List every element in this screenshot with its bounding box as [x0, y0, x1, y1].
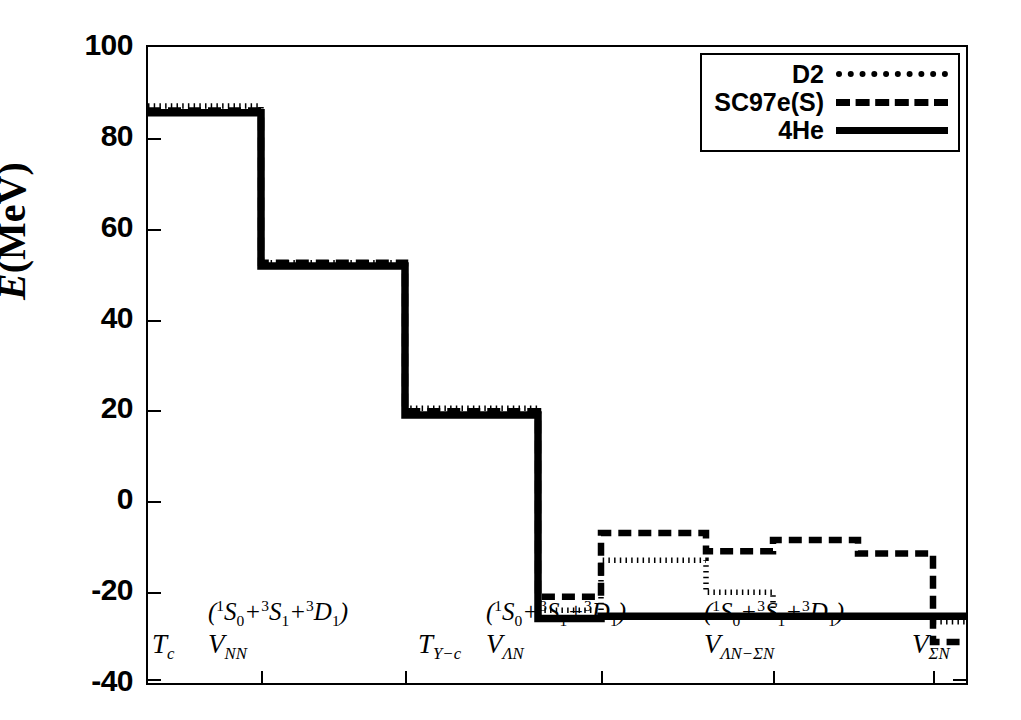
y-tick-mark — [148, 320, 161, 322]
plot-area: D2SC97e(S)4He — [146, 45, 968, 685]
y-tick-label: 100 — [38, 30, 133, 60]
legend-label: 4He — [778, 116, 824, 145]
x-tick-mark — [261, 671, 263, 683]
x-group-label: VNN — [208, 630, 247, 663]
legend: D2SC97e(S)4He — [700, 53, 960, 152]
legend-line — [836, 99, 948, 106]
y-axis-title-unit: (MeV) — [0, 162, 34, 273]
y-tick-label: 80 — [38, 121, 133, 151]
x-group-label: VΛN — [486, 630, 524, 663]
legend-line — [836, 71, 948, 77]
series-line-d2 — [148, 106, 966, 628]
y-tick-mark — [148, 410, 161, 412]
legend-label: SC97e(S) — [714, 88, 824, 117]
y-tick-mark — [148, 592, 161, 594]
chart-root: E(MeV) 100806040200-20-40 D2SC97e(S)4He … — [0, 0, 1021, 720]
series-line-4he — [148, 113, 966, 619]
y-tick-label: 20 — [38, 393, 133, 423]
y-tick-label: 40 — [38, 303, 133, 333]
x-group-label: VΛN−ΣN — [704, 630, 774, 663]
y-tick-label: 0 — [38, 484, 133, 514]
x-tick-mark — [773, 671, 775, 683]
legend-item: 4He — [714, 116, 948, 144]
legend-item: D2 — [714, 60, 948, 88]
legend-swatch-dotted — [836, 70, 948, 79]
y-tick-label: -40 — [38, 666, 133, 696]
x-group-top-label: (1S0+3S1+3D1) — [208, 598, 348, 630]
y-tick-mark — [148, 501, 161, 503]
y-tick-mark — [148, 679, 161, 681]
x-tick-mark — [933, 671, 935, 683]
x-tick-mark — [405, 671, 407, 683]
y-tick-label: -20 — [38, 575, 133, 605]
x-group-top-label: (1S0+3S1+3D1) — [486, 598, 626, 630]
y-tick-mark — [148, 138, 161, 140]
legend-swatch-dashed — [836, 98, 948, 107]
x-group-top-label: (1S0+3S1+3D1) — [704, 598, 844, 630]
legend-line — [836, 127, 948, 134]
legend-label: D2 — [792, 60, 824, 89]
y-axis-title: E(MeV) — [0, 162, 35, 300]
x-group-label: VΣN — [912, 630, 950, 663]
series-line-4he-outline — [148, 113, 966, 619]
x-group-label: TY−c — [418, 630, 461, 663]
y-tick-mark-right — [953, 679, 966, 681]
y-axis-title-symbol: E — [0, 273, 34, 300]
x-group-label: Tc — [152, 630, 174, 663]
series-line-sc97e-s- — [148, 111, 966, 643]
y-tick-mark — [148, 229, 161, 231]
legend-item: SC97e(S) — [714, 88, 948, 116]
legend-swatch-solid — [836, 126, 948, 135]
y-tick-label: 60 — [38, 212, 133, 242]
x-tick-mark — [601, 671, 603, 683]
